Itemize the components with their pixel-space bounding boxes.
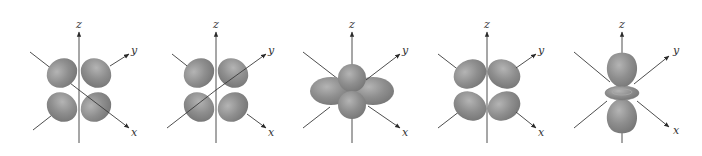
torus-ring xyxy=(605,86,639,100)
y-axis-arrow xyxy=(516,54,536,68)
orbital-5-diagram: z y x xyxy=(574,18,680,143)
y-axis-back-line xyxy=(574,52,610,82)
y-axis-arrow xyxy=(110,54,129,66)
z-axis-label: z xyxy=(75,18,82,31)
x-axis-back-line xyxy=(438,111,460,128)
bottom-lobe xyxy=(607,98,637,133)
x-axis-label: x xyxy=(538,126,545,139)
y-axis-label: y xyxy=(130,44,138,57)
orbital-3-diagram: z y x xyxy=(303,18,409,143)
z-axis-label: z xyxy=(618,18,625,31)
x-axis-arrow xyxy=(247,114,266,128)
x-axis-label: x xyxy=(268,126,275,139)
orbital-4-diagram: z y x xyxy=(438,18,545,143)
x-axis-label: x xyxy=(402,126,409,139)
x-axis-back-line xyxy=(574,101,607,128)
orbital-1-diagram: z y x xyxy=(30,18,138,143)
x-axis-arrow xyxy=(516,112,536,128)
y-axis-arrow xyxy=(366,54,400,80)
z-axis-label: z xyxy=(212,18,219,31)
y-axis-arrow xyxy=(634,56,669,84)
z-axis-label: z xyxy=(483,18,490,31)
y-axis-label: y xyxy=(672,44,680,57)
orbital-2-diagram: z y x xyxy=(167,18,275,143)
top-lobe xyxy=(607,53,637,88)
x-axis-arrow xyxy=(368,106,400,128)
x-axis-back-line xyxy=(303,107,330,128)
y-axis-back-line xyxy=(303,52,338,79)
y-axis-label: y xyxy=(401,44,409,57)
x-axis-arrow xyxy=(637,101,669,127)
orbital-lobes xyxy=(605,53,639,134)
z-axis-label: z xyxy=(348,18,355,31)
y-axis-label: y xyxy=(537,44,545,57)
x-axis-label: x xyxy=(131,126,138,139)
y-axis-label: y xyxy=(267,44,275,57)
orbital-lobes xyxy=(310,64,394,119)
x-axis-label: x xyxy=(673,124,680,137)
orbital-figure: z y x z y x z y x xyxy=(0,0,702,156)
